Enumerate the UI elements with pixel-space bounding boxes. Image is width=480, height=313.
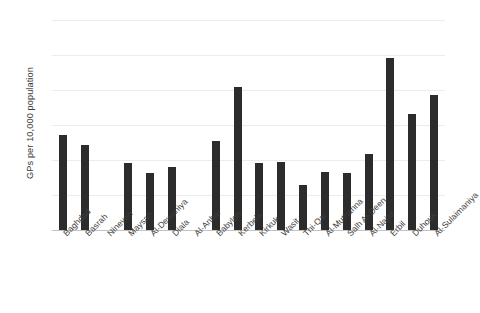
x-axis-tick-labels: BaghdadBasrahNinevehMaysanAl-DewaniyaDia… [52, 231, 452, 313]
bar-slot[interactable] [183, 20, 205, 230]
bars-layer [52, 20, 445, 230]
bar-slot[interactable] [227, 20, 249, 230]
bar-slot[interactable] [292, 20, 314, 230]
bar[interactable] [59, 135, 67, 230]
bar-slot[interactable] [139, 20, 161, 230]
y-axis-title: GPs per 10,000 population [25, 33, 35, 213]
bar-slot[interactable] [423, 20, 445, 230]
bar-slot[interactable] [205, 20, 227, 230]
bar-slot[interactable] [52, 20, 74, 230]
bar-slot[interactable] [74, 20, 96, 230]
bar[interactable] [408, 114, 416, 230]
bar-slot[interactable] [401, 20, 423, 230]
bar-slot[interactable] [249, 20, 271, 230]
bar[interactable] [386, 58, 394, 230]
bar-slot[interactable] [96, 20, 118, 230]
bar-slot[interactable] [118, 20, 140, 230]
bar-slot[interactable] [314, 20, 336, 230]
plot-area: 024681012 [52, 20, 445, 230]
bar-slot[interactable] [270, 20, 292, 230]
